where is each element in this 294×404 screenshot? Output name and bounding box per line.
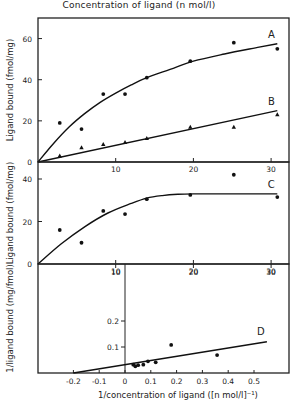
data-point-circle (80, 127, 84, 131)
data-point-triangle (101, 142, 105, 146)
plot-frame (38, 162, 289, 264)
data-point-triangle (58, 153, 62, 157)
series-A: A (38, 29, 279, 162)
y-tick-label: 0 (27, 158, 32, 167)
x-tick-label: 0 (123, 377, 128, 386)
data-point-circle (275, 47, 279, 51)
data-point-circle (123, 92, 127, 96)
y-tick-label: 40 (22, 175, 32, 184)
plot-frame (38, 18, 289, 162)
y-tick-label: 60 (22, 35, 32, 44)
y-tick-label: 0.1 (107, 343, 119, 352)
data-point-circle (215, 353, 219, 357)
bottom-x-axis-title: 1/concentration of ligand ([n mol/l]⁻¹) (98, 390, 258, 400)
panel-middle-specific-binding: 02040102030Ligand bound (fmol/mg)C102030 (5, 162, 289, 276)
data-point-circle (101, 209, 105, 213)
y-tick-label: 40 (22, 76, 32, 85)
y-axis-title: Ligand bound (fmol/mg) (5, 162, 15, 265)
data-point-circle (188, 193, 192, 197)
data-point-circle (123, 212, 127, 216)
x-tick-label: 0.4 (222, 377, 234, 386)
figure-canvas: 0204060Ligand bound (fmol/mg)AB 02040102… (0, 0, 294, 404)
y-axis-title: Ligand bound (fmol/mg) (5, 39, 15, 142)
x-tick-label: -0.2 (66, 377, 81, 386)
data-point-circle (169, 343, 173, 347)
y-tick-label: 20 (22, 218, 32, 227)
curve-label-B: B (268, 96, 275, 107)
curve-label-A: A (268, 29, 275, 40)
x-tick-label: 0.1 (145, 377, 157, 386)
data-point-circle (232, 173, 236, 177)
data-point-circle (145, 76, 149, 80)
top-x-tick-label: 20 (189, 268, 199, 277)
fit-line-A (38, 44, 277, 162)
data-point-circle (275, 195, 279, 199)
x-tick-label: 0.3 (196, 377, 208, 386)
y-tick-label: 0.2 (107, 317, 119, 326)
series-C: C (38, 173, 279, 264)
data-point-triangle (232, 125, 236, 129)
series-B: B (38, 96, 280, 162)
data-point-circle (58, 228, 62, 232)
data-point-circle (146, 359, 150, 363)
y-tick-label: 0 (27, 260, 32, 269)
x-tick-label: 0.2 (171, 377, 183, 386)
y-axis-title: 1/ligand bound (mg/fmol) (5, 264, 15, 373)
data-point-circle (154, 360, 158, 364)
x-tick-label: 30 (266, 165, 276, 174)
curve-label-C: C (268, 179, 275, 190)
data-point-circle (58, 121, 62, 125)
data-point-circle (136, 363, 140, 367)
data-point-triangle (275, 112, 279, 116)
data-point-triangle (123, 140, 127, 144)
panel-bottom-double-reciprocal: 102030-0.2-0.100.10.20.30.40.50.10.21/li… (5, 264, 289, 386)
data-point-circle (188, 59, 192, 63)
data-point-circle (101, 92, 105, 96)
data-point-triangle (188, 125, 192, 129)
fit-line-C (38, 194, 277, 264)
data-point-circle (80, 241, 84, 245)
data-point-circle (141, 363, 145, 367)
curve-label-D: D (257, 326, 265, 337)
y-tick-label: 20 (22, 117, 32, 126)
top-x-tick-label: 30 (266, 268, 276, 277)
fit-line-B (38, 111, 277, 162)
x-tick-label: 0.5 (248, 377, 260, 386)
panel-top-binding-curves: 0204060Ligand bound (fmol/mg)AB (5, 18, 289, 167)
top-x-tick-label: 10 (111, 268, 121, 277)
series-D: D (73, 326, 267, 373)
x-tick-label: 20 (189, 165, 199, 174)
data-point-circle (145, 197, 149, 201)
plot-frame (38, 264, 289, 373)
x-tick-label: 10 (111, 165, 121, 174)
data-point-circle (232, 41, 236, 45)
data-point-triangle (79, 145, 83, 149)
x-tick-label: -0.1 (92, 377, 107, 386)
